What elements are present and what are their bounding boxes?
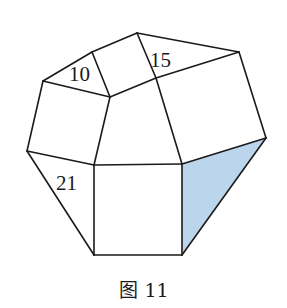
edge-BD bbox=[92, 52, 110, 97]
edge-HI bbox=[27, 151, 94, 165]
polyhedron-net-diagram: 10 15 21 图 11 bbox=[0, 0, 287, 308]
edge-HK bbox=[27, 151, 94, 255]
edge-CH bbox=[27, 81, 43, 151]
figure-caption: 图 11 bbox=[119, 279, 168, 301]
edge-IJ bbox=[94, 164, 182, 165]
edge-DI bbox=[94, 97, 110, 165]
edge-DE bbox=[110, 78, 156, 97]
face-labels: 10 15 21 bbox=[56, 48, 171, 195]
edge-EJ bbox=[156, 78, 182, 164]
edge-FG bbox=[239, 52, 266, 138]
label-15: 15 bbox=[150, 48, 171, 72]
edge-AB bbox=[92, 33, 137, 52]
label-21: 21 bbox=[56, 171, 77, 195]
label-10: 10 bbox=[69, 62, 90, 86]
diagram-edges bbox=[27, 33, 266, 255]
